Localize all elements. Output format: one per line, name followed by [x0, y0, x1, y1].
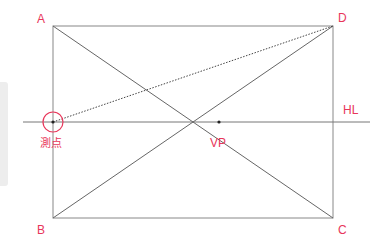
label-b: B	[37, 223, 45, 237]
perspective-diagram: A D B C HL VP 測点	[0, 0, 388, 250]
label-measure-point: 測点	[40, 136, 62, 150]
label-a: A	[37, 12, 45, 26]
label-d: D	[338, 11, 347, 25]
label-vp: VP	[210, 136, 226, 150]
label-hl: HL	[343, 103, 359, 117]
label-c: C	[338, 223, 347, 237]
measure-point-dot	[51, 120, 54, 123]
measure-dotted-line	[53, 26, 333, 122]
vanishing-point-dot	[217, 120, 220, 123]
